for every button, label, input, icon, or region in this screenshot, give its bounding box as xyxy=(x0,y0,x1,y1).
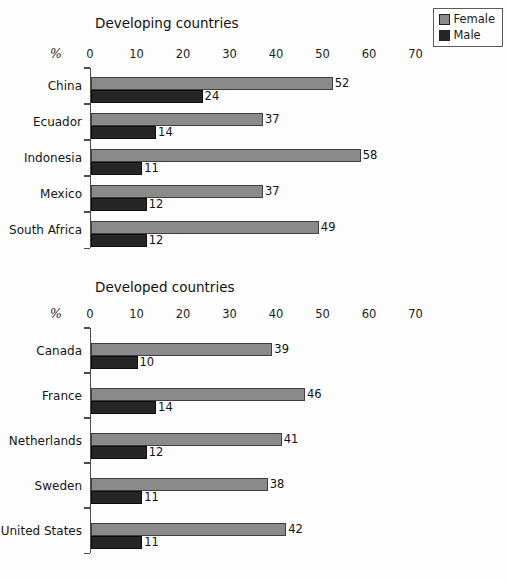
category-row: Mexico3712 xyxy=(91,176,506,212)
chart-developed-countries: Developed countries % 010203040506070 Ca… xyxy=(0,248,507,553)
category-label: France xyxy=(42,389,82,403)
male-bar xyxy=(91,356,138,369)
male-barline: 11 xyxy=(91,536,506,549)
x-tick-label: 20 xyxy=(176,47,191,61)
x-tick-label: 40 xyxy=(269,307,284,321)
value-label: 37 xyxy=(265,185,280,198)
female-bar xyxy=(91,478,268,491)
value-label: 11 xyxy=(144,536,159,549)
category-row: Canada3910 xyxy=(91,328,506,373)
female-bar xyxy=(91,433,282,446)
x-tick-label: 20 xyxy=(176,307,191,321)
male-bar xyxy=(91,446,147,459)
value-label: 14 xyxy=(158,126,173,139)
category-label: China xyxy=(48,79,82,93)
legend-label-female: Female xyxy=(453,13,495,26)
value-label: 58 xyxy=(363,149,378,162)
x-tick-label: 40 xyxy=(269,47,284,61)
female-bar xyxy=(91,149,361,162)
x-tick-label: 70 xyxy=(408,47,423,61)
x-axis: % 010203040506070 xyxy=(90,47,507,62)
x-axis: % 010203040506070 xyxy=(90,307,507,322)
plot-area: China5224Ecuador3714Indonesia5811Mexico3… xyxy=(90,68,506,248)
female-bar xyxy=(91,343,272,356)
female-barline: 46 xyxy=(91,388,506,401)
category-row: South Africa4912 xyxy=(91,212,506,248)
category-row: Sweden3811 xyxy=(91,463,506,508)
value-label: 46 xyxy=(307,388,322,401)
male-bar xyxy=(91,536,142,549)
percent-axis-label: % xyxy=(50,46,62,61)
category-label: Mexico xyxy=(40,187,82,201)
plot-area: Canada3910France4614Netherlands4112Swede… xyxy=(90,328,506,553)
value-label: 41 xyxy=(284,433,299,446)
value-label: 12 xyxy=(149,198,164,211)
value-label: 24 xyxy=(205,90,220,103)
category-label: South Africa xyxy=(9,223,82,237)
female-barline: 37 xyxy=(91,113,506,126)
legend-item-female: Female xyxy=(439,13,495,26)
value-label: 37 xyxy=(265,113,280,126)
scanned-chart-page: Female Male Developing countries % 01020… xyxy=(0,0,507,581)
legend-item-male: Male xyxy=(439,29,495,42)
value-label: 11 xyxy=(144,491,159,504)
female-bar xyxy=(91,523,286,536)
category-row: France4614 xyxy=(91,373,506,418)
male-bar xyxy=(91,491,142,504)
male-bar xyxy=(91,401,156,414)
female-bar xyxy=(91,221,319,234)
value-label: 52 xyxy=(335,77,350,90)
male-barline: 12 xyxy=(91,198,506,211)
x-tick-label: 10 xyxy=(129,47,144,61)
value-label: 49 xyxy=(321,221,336,234)
x-tick-label: 60 xyxy=(362,307,377,321)
male-barline: 14 xyxy=(91,126,506,139)
female-barline: 52 xyxy=(91,77,506,90)
x-tick-label: 0 xyxy=(86,47,93,61)
female-bar xyxy=(91,113,263,126)
male-barline: 10 xyxy=(91,356,506,369)
chart-title: Developed countries xyxy=(95,248,507,295)
x-tick-label: 60 xyxy=(362,47,377,61)
value-label: 12 xyxy=(149,446,164,459)
value-label: 12 xyxy=(149,234,164,247)
legend: Female Male xyxy=(433,8,503,47)
category-label: Indonesia xyxy=(24,151,82,165)
male-barline: 14 xyxy=(91,401,506,414)
male-barline: 12 xyxy=(91,446,506,459)
category-label: Ecuador xyxy=(33,115,82,129)
legend-label-male: Male xyxy=(453,29,480,42)
x-tick-label: 70 xyxy=(408,307,423,321)
category-label: Canada xyxy=(36,344,82,358)
category-row: China5224 xyxy=(91,68,506,104)
value-label: 10 xyxy=(140,356,155,369)
male-barline: 12 xyxy=(91,234,506,247)
x-tick-label: 50 xyxy=(315,307,330,321)
value-label: 42 xyxy=(288,523,303,536)
percent-axis-label: % xyxy=(50,306,62,321)
female-swatch-icon xyxy=(439,14,450,25)
male-bar xyxy=(91,90,203,103)
value-label: 11 xyxy=(144,162,159,175)
category-label: Sweden xyxy=(35,479,82,493)
value-label: 38 xyxy=(270,478,285,491)
male-bar xyxy=(91,126,156,139)
female-bar xyxy=(91,185,263,198)
category-row: Indonesia5811 xyxy=(91,140,506,176)
x-tick-label: 30 xyxy=(222,307,237,321)
male-swatch-icon xyxy=(439,30,450,41)
category-row: Netherlands4112 xyxy=(91,418,506,463)
category-row: Ecuador3714 xyxy=(91,104,506,140)
male-bar xyxy=(91,198,147,211)
category-label: United States xyxy=(1,524,82,538)
x-tick-label: 10 xyxy=(129,307,144,321)
female-bar xyxy=(91,388,305,401)
x-tick-label: 30 xyxy=(222,47,237,61)
x-tick-label: 0 xyxy=(86,307,93,321)
value-label: 39 xyxy=(274,343,289,356)
category-row: United States4211 xyxy=(91,508,506,553)
category-label: Netherlands xyxy=(9,434,82,448)
chart-developing-countries: Developing countries % 010203040506070 C… xyxy=(0,0,507,248)
value-label: 14 xyxy=(158,401,173,414)
male-bar xyxy=(91,162,142,175)
